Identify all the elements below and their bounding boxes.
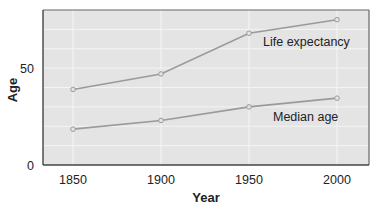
data-point-marker	[159, 72, 164, 77]
data-point-marker	[335, 17, 340, 22]
line-chart: 50 0 1850 1900 1950 2000 Year Age Life e…	[0, 0, 378, 211]
data-point-marker	[247, 105, 252, 110]
y-tick-50: 50	[20, 62, 34, 76]
data-point-marker	[159, 118, 164, 123]
y-axis-title: Age	[5, 78, 20, 103]
life-expectancy-label: Life expectancy	[263, 35, 351, 49]
x-tick-1900: 1900	[147, 173, 175, 187]
data-point-marker	[71, 87, 76, 92]
data-point-marker	[247, 31, 252, 36]
data-point-marker	[335, 96, 340, 101]
x-tick-1950: 1950	[235, 173, 263, 187]
x-tick-1850: 1850	[59, 173, 87, 187]
data-point-marker	[71, 127, 76, 132]
x-tick-2000: 2000	[323, 173, 351, 187]
x-axis-title: Year	[192, 190, 219, 205]
y-tick-0: 0	[27, 159, 34, 173]
median-age-label: Median age	[273, 110, 338, 124]
